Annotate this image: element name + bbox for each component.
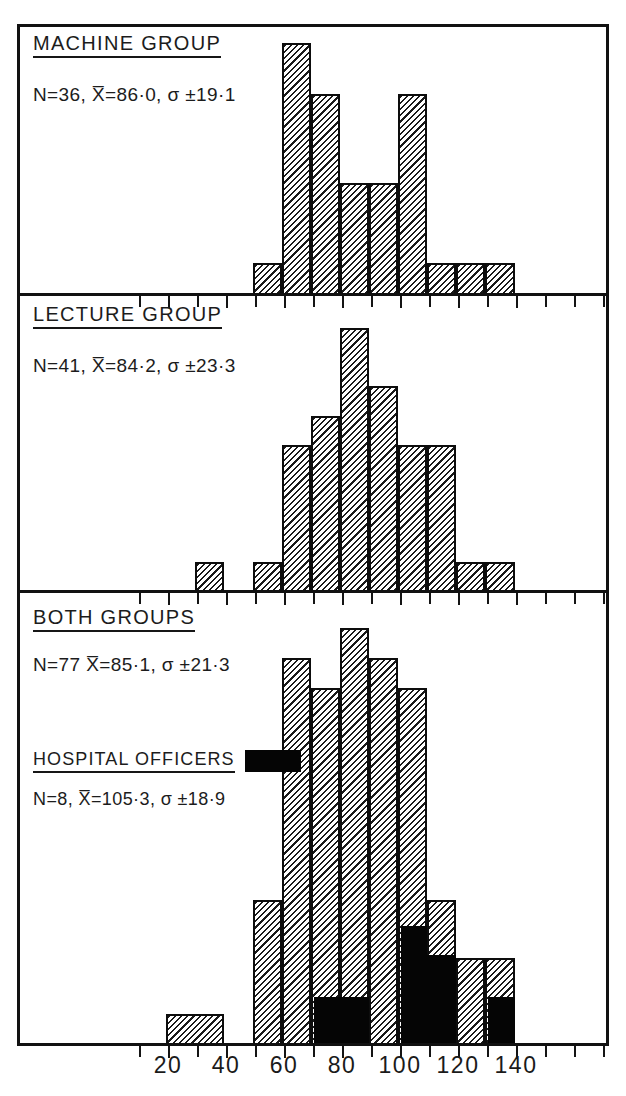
hospital-officers-stats: N=8, X̅=105·3, σ ±18·9 (33, 790, 226, 810)
bar-lecture-60-70 (282, 445, 311, 590)
panel-machine-group-plot (20, 27, 606, 293)
both-groups-title: BOTH GROUPS (33, 607, 195, 632)
bar-officers-110-120 (427, 955, 456, 1043)
hospital-officers-label: HOSPITAL OFFICERS (33, 750, 235, 773)
bar-machine-100-110 (398, 94, 427, 293)
bar-both-120-130 (456, 958, 485, 1043)
hospital-officers-legend: HOSPITAL OFFICERS (33, 750, 301, 773)
bar-lecture-120-130 (456, 562, 485, 590)
bar-machine-70-80 (311, 94, 340, 293)
bar-machine-120-130 (456, 263, 485, 293)
panel-both-groups: BOTH GROUPS N=77 X̅=85·1, σ ±21·3 HOSPIT… (20, 593, 606, 1043)
x-axis-label-100: 100 (379, 1052, 422, 1079)
lecture-group-stats: N=41, X̅=84·2, σ ±23·3 (33, 356, 236, 377)
machine-group-title-wrap: MACHINE GROUP (33, 33, 221, 58)
bar-lecture-80-90 (340, 328, 369, 590)
bar-both-60-70 (282, 658, 311, 1043)
panel-lecture-group: LECTURE GROUP N=41, X̅=84·2, σ ±23·3 (20, 296, 606, 590)
x-axis-label-120: 120 (437, 1052, 480, 1079)
bar-machine-50-60 (253, 263, 282, 293)
x-axis-label-80: 80 (328, 1052, 357, 1079)
bar-both-70-80 (311, 688, 340, 1043)
bar-officers-80-90 (340, 997, 369, 1043)
panel-lecture-group-plot (20, 296, 606, 590)
bar-machine-110-120 (427, 263, 456, 293)
bar-machine-80-90 (340, 183, 369, 293)
bar-lecture-110-120 (427, 445, 456, 590)
bar-lecture-50-60 (253, 562, 282, 590)
x-axis-labels: 20406080100120140 (0, 1052, 626, 1092)
bar-lecture-130-140 (485, 562, 515, 590)
bar-both-90-100 (369, 658, 398, 1043)
both-groups-stats: N=77 X̅=85·1, σ ±21·3 (33, 655, 230, 676)
bar-officers-70-80 (314, 997, 340, 1043)
bar-officers-100-110 (401, 926, 427, 1043)
x-axis-label-40: 40 (212, 1052, 241, 1079)
bar-machine-130-140 (485, 263, 515, 293)
bar-machine-60-70 (282, 43, 311, 293)
machine-group-stats: N=36, X̅=86·0, σ ±19·1 (33, 85, 236, 106)
bar-machine-90-100 (369, 183, 398, 293)
bar-both-80-90 (340, 628, 369, 1043)
lecture-group-title: LECTURE GROUP (33, 304, 222, 329)
bar-both-50-60 (253, 900, 282, 1043)
panel-machine-group: MACHINE GROUP N=36, X̅=86·0, σ ±19·1 (20, 27, 606, 293)
bar-both-20-40 (166, 1014, 224, 1043)
bar-officers-130-140 (488, 997, 515, 1043)
x-axis-label-20: 20 (154, 1052, 183, 1079)
figure-canvas: MACHINE GROUP N=36, X̅=86·0, σ ±19·1 LEC… (0, 0, 626, 1096)
hospital-officers-swatch (245, 750, 301, 772)
x-axis-label-140: 140 (495, 1052, 538, 1079)
bar-lecture-100-110 (398, 445, 427, 590)
x-axis-label-60: 60 (270, 1052, 299, 1079)
both-groups-title-wrap: BOTH GROUPS (33, 607, 195, 632)
bar-lecture-90-100 (369, 386, 398, 590)
machine-group-title: MACHINE GROUP (33, 33, 221, 58)
bar-lecture-30-40 (195, 562, 224, 590)
bar-lecture-70-80 (311, 416, 340, 590)
lecture-group-title-wrap: LECTURE GROUP (33, 304, 222, 329)
